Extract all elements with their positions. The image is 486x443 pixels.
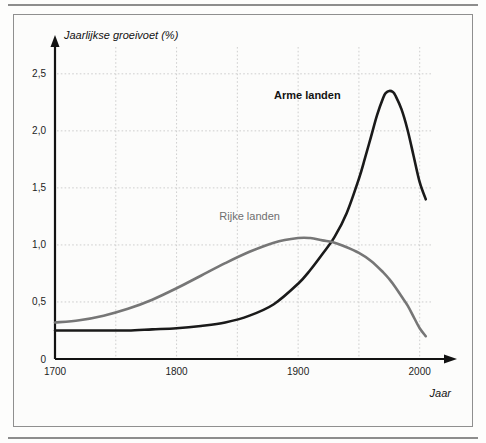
x-axis-tick-label: 1800 <box>165 366 188 377</box>
gridlines-layer <box>57 47 432 358</box>
y-axis-arrow-icon <box>51 35 60 47</box>
x-axis-tick-label: 1700 <box>44 366 67 377</box>
series-curve <box>55 238 426 337</box>
line-chart: 00,51,01,52,02,51700180019002000 Arme la… <box>14 15 472 426</box>
y-axis-tick-label: 1,5 <box>32 182 46 193</box>
y-axis-title: Jaarlijkse groeivoet (%) <box>63 29 179 41</box>
chart-page: 00,51,01,52,02,51700180019002000 Arme la… <box>0 0 486 443</box>
y-axis-tick-label: 0,5 <box>32 296 46 307</box>
x-axis-arrow-icon <box>444 355 457 364</box>
y-axis-tick-label: 2,0 <box>32 125 46 136</box>
series-label: Rijke landen <box>219 210 280 222</box>
x-axis-title: Jaar <box>429 387 453 399</box>
series-label: Arme landen <box>274 89 341 101</box>
figure-frame: 00,51,01,52,02,51700180019002000 Arme la… <box>13 14 473 427</box>
top-divider-rule <box>8 4 478 6</box>
x-axis-tick-label: 1900 <box>287 366 310 377</box>
y-axis-tick-label: 0 <box>40 354 46 365</box>
x-axis-tick-label: 2000 <box>409 366 432 377</box>
y-axis-tick-label: 2,5 <box>32 68 46 79</box>
bottom-divider-rule <box>8 437 478 439</box>
y-axis-tick-label: 1,0 <box>32 239 46 250</box>
